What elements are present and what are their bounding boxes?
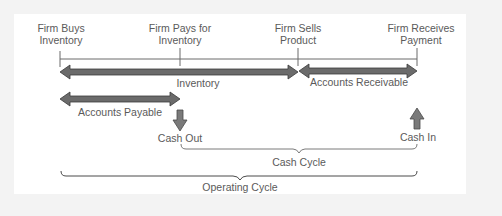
event-label-line1: Firm Buys (22, 22, 100, 34)
event-firm-buys-inventory: Firm Buys Inventory (22, 22, 100, 46)
event-label-line2: Product (252, 34, 344, 46)
operating-cycle-label: Operating Cycle (185, 181, 295, 193)
cash-cycle-bracket (181, 144, 417, 153)
cash-cycle-label: Cash Cycle (255, 156, 343, 168)
event-label-line2: Inventory (22, 34, 100, 46)
accounts-payable-label: Accounts Payable (64, 106, 176, 118)
accounts-payable-arrow-icon (60, 92, 180, 106)
inventory-period-label: Inventory (140, 77, 256, 89)
timeline (60, 48, 417, 67)
event-firm-pays-inventory: Firm Pays for Inventory (135, 22, 225, 46)
event-firm-receives-payment: Firm Receives Payment (373, 22, 469, 46)
operating-cycle-bracket (61, 171, 417, 180)
event-label-line2: Payment (373, 34, 469, 46)
event-firm-sells-product: Firm Sells Product (252, 22, 344, 46)
event-label-line2: Inventory (135, 34, 225, 46)
cash-out-label: Cash Out (150, 132, 210, 144)
event-label-line1: Firm Receives (373, 22, 469, 34)
event-label-line1: Firm Sells (252, 22, 344, 34)
cash-in-arrow-icon (410, 108, 424, 129)
cash-in-label: Cash In (392, 131, 444, 143)
accounts-receivable-label: Accounts Receivable (300, 76, 418, 88)
event-label-line1: Firm Pays for (135, 22, 225, 34)
